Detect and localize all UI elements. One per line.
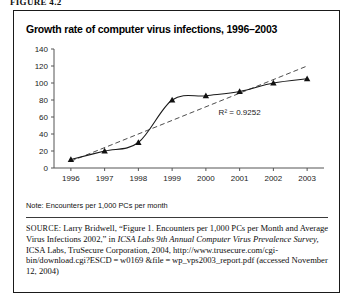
line-chart-svg: 0204060801001201401996199719981999200020… xyxy=(20,43,332,198)
svg-text:1997: 1997 xyxy=(96,174,114,183)
chart-note: Note: Encounters per 1,000 PCs per month xyxy=(26,201,168,210)
chart-plot-area: 0204060801001201401996199719981999200020… xyxy=(20,43,332,198)
svg-text:80: 80 xyxy=(39,96,48,105)
svg-text:2000: 2000 xyxy=(197,174,215,183)
svg-text:2001: 2001 xyxy=(231,174,249,183)
svg-text:0: 0 xyxy=(44,164,49,173)
svg-text:1998: 1998 xyxy=(129,174,147,183)
source-italic-1: ICSA Labs 9th Annual xyxy=(117,234,194,244)
source-italic-2: Computer Virus Prevalence Survey, xyxy=(196,234,318,244)
source-line-3: ICSA Labs, TruSecure Corporation, xyxy=(26,245,149,255)
svg-text:2003: 2003 xyxy=(298,174,316,183)
figure-box: Growth rate of computer virus infections… xyxy=(13,10,340,293)
svg-text:R² = 0.9252: R² = 0.9252 xyxy=(219,108,262,117)
svg-text:100: 100 xyxy=(35,79,49,88)
chart-title: Growth rate of computer virus infections… xyxy=(26,23,277,35)
source-label: SOURCE: xyxy=(26,224,61,233)
svg-text:40: 40 xyxy=(39,130,48,139)
svg-text:2002: 2002 xyxy=(264,174,282,183)
svg-text:120: 120 xyxy=(35,62,49,71)
svg-text:1996: 1996 xyxy=(62,174,80,183)
svg-text:1999: 1999 xyxy=(163,174,181,183)
svg-text:140: 140 xyxy=(35,45,49,54)
figure-label: FIGURE 4.2 xyxy=(10,0,62,7)
svg-text:20: 20 xyxy=(39,147,48,156)
svg-text:60: 60 xyxy=(39,113,48,122)
source-block: SOURCE: Larry Bridwell, “Figure 1. Encou… xyxy=(26,223,330,276)
source-line-1: Larry Bridwell, “Figure 1. Encounters pe… xyxy=(61,223,283,233)
source-divider xyxy=(26,217,328,218)
